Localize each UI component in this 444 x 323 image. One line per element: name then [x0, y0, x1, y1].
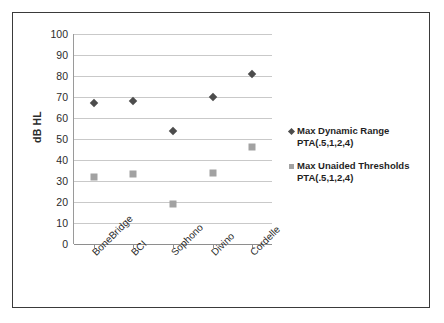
y-axis-tick-label: 30	[56, 175, 68, 187]
gridline	[74, 34, 272, 35]
gridline	[74, 139, 272, 140]
chart-legend: Max Dynamic RangePTA(.5,1,2,4)Max Unaide…	[285, 125, 423, 195]
y-axis-tick-label: 60	[56, 112, 68, 124]
x-axis-tick-label: BCI	[129, 238, 149, 258]
gridline	[74, 76, 272, 77]
data-point	[169, 126, 177, 134]
y-axis-tick-label: 10	[56, 217, 68, 229]
diamond-marker-icon	[287, 128, 294, 135]
y-axis-tick-label: 100	[50, 28, 68, 40]
gridline	[74, 223, 272, 224]
x-axis-tick-label: BoneBridge	[90, 213, 135, 258]
y-axis-tick-label: 70	[56, 91, 68, 103]
legend-marker-wrap	[285, 125, 297, 134]
legend-item[interactable]: Max Dynamic RangePTA(.5,1,2,4)	[285, 125, 423, 149]
legend-label-line2: PTA(.5,1,2,4)	[297, 172, 409, 184]
data-point	[90, 173, 97, 180]
gridline	[74, 55, 272, 56]
data-point	[208, 93, 216, 101]
legend-label-line1: Max Unaided Thresholds	[297, 160, 409, 171]
data-point	[129, 97, 137, 105]
y-axis-tick-label: 0	[62, 238, 68, 250]
gridline	[74, 97, 272, 98]
data-point	[249, 144, 256, 151]
legend-marker-wrap	[285, 160, 297, 169]
legend-label-line2: PTA(.5,1,2,4)	[297, 137, 389, 149]
y-axis-tick-label: 90	[56, 49, 68, 61]
y-axis-tick-label: 40	[56, 154, 68, 166]
data-point	[170, 201, 177, 208]
data-point	[209, 169, 216, 176]
x-axis-tick-label: Cordelle	[248, 224, 282, 258]
data-point	[130, 170, 137, 177]
y-axis-tick-label: 80	[56, 70, 68, 82]
y-axis-tick-label: 20	[56, 196, 68, 208]
legend-label: Max Unaided ThresholdsPTA(.5,1,2,4)	[297, 160, 409, 184]
gridline	[74, 181, 272, 182]
chart-container: dB HL 1009080706050403020100 BoneBridgeB…	[12, 12, 430, 308]
x-axis-tick-label: Sophono	[169, 222, 205, 258]
legend-item[interactable]: Max Unaided ThresholdsPTA(.5,1,2,4)	[285, 160, 423, 184]
y-axis-title: dB HL	[31, 97, 43, 157]
gridline	[74, 118, 272, 119]
plot-area: 1009080706050403020100 BoneBridgeBCISoph…	[73, 34, 272, 244]
legend-label: Max Dynamic RangePTA(.5,1,2,4)	[297, 125, 389, 149]
square-marker-icon	[289, 164, 294, 169]
y-axis-tick-label: 50	[56, 133, 68, 145]
data-point	[90, 99, 98, 107]
legend-label-line1: Max Dynamic Range	[297, 125, 389, 136]
gridline	[74, 160, 272, 161]
